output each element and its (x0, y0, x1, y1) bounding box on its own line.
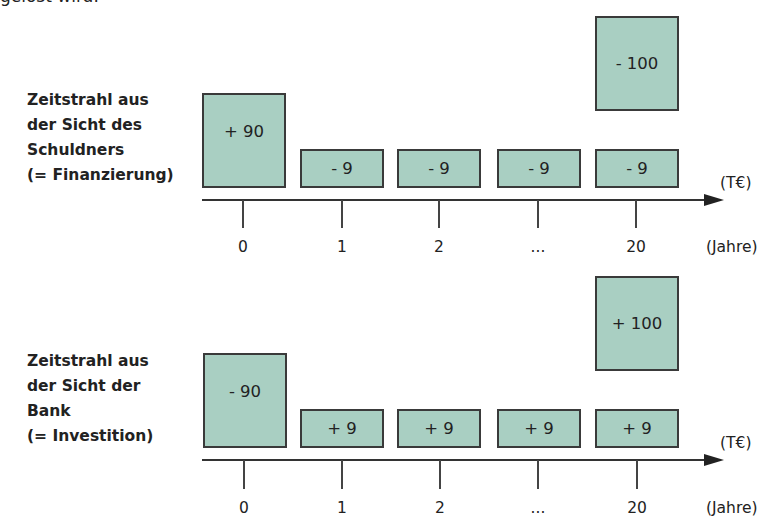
label-line: Schuldners (27, 138, 174, 163)
tick-label: ... (531, 238, 546, 256)
tick-label: 0 (238, 238, 248, 256)
cashflow-box-t1: + 9 (300, 409, 384, 448)
label-line: (= Finanzierung) (27, 163, 174, 188)
cashflow-box-t20-repayment: - 100 (595, 16, 679, 111)
tick-mark (438, 200, 440, 228)
tick-label: 0 (239, 499, 249, 517)
tick-label: 1 (337, 238, 347, 256)
label-line: (= Investition) (27, 424, 153, 449)
tick-mark (242, 200, 244, 228)
cut-off-text-fragment: gelöst wird. (0, 0, 99, 6)
tick-mark (636, 460, 638, 489)
tick-mark (635, 200, 637, 228)
unit-value-label: (T€) (720, 174, 751, 192)
cashflow-box-t2: - 9 (397, 149, 481, 188)
label-line: Zeitstrahl aus (27, 88, 174, 113)
timeline-label-schuldner: Zeitstrahl aus der Sicht des Schuldners … (27, 88, 174, 188)
timeline-label-bank: Zeitstrahl aus der Sicht der Bank (= Inv… (27, 349, 153, 449)
unit-value-label: (T€) (720, 434, 751, 452)
cashflow-box-t20-interest: - 9 (595, 149, 679, 188)
cashflow-box-t2: + 9 (397, 409, 481, 448)
tick-label: 20 (627, 499, 647, 517)
tick-mark (243, 460, 245, 489)
time-axis (202, 459, 706, 461)
cashflow-box-tn: - 9 (497, 149, 581, 188)
arrow-right-icon (704, 194, 724, 206)
tick-label: 2 (434, 238, 444, 256)
tick-mark (341, 200, 343, 228)
tick-mark (439, 460, 441, 489)
label-line: Bank (27, 399, 153, 424)
cashflow-box-tn: + 9 (497, 409, 581, 448)
label-line: Zeitstrahl aus (27, 349, 153, 374)
tick-mark (537, 460, 539, 489)
tick-mark (341, 460, 343, 489)
unit-time-label: (Jahre) (706, 238, 758, 256)
cashflow-box-t20-interest: + 9 (595, 409, 679, 448)
tick-label: ... (531, 499, 546, 517)
label-line: der Sicht des (27, 113, 174, 138)
time-axis (202, 199, 706, 201)
label-line: der Sicht der (27, 374, 153, 399)
cashflow-box-t20-repayment: + 100 (595, 276, 679, 371)
tick-label: 20 (626, 238, 646, 256)
arrow-right-icon (704, 454, 724, 466)
tick-label: 2 (435, 499, 445, 517)
unit-time-label: (Jahre) (706, 499, 758, 517)
tick-mark (537, 200, 539, 228)
tick-label: 1 (337, 499, 347, 517)
cashflow-box-t1: - 9 (300, 149, 384, 188)
cashflow-box-t0: + 90 (202, 93, 286, 188)
cashflow-box-t0: - 90 (203, 353, 287, 448)
